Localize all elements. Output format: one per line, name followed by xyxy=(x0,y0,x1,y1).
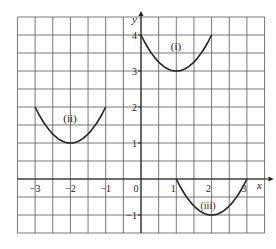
y-axis-label: y xyxy=(131,13,137,25)
curve-label-ii: (ii) xyxy=(63,112,77,125)
x-tick-label: 2 xyxy=(206,183,211,194)
y-tick-label: 2 xyxy=(132,102,137,113)
tick-labels: −3−2−101234321−1 xyxy=(30,30,247,221)
curve-label-iii: (iii) xyxy=(201,200,216,212)
x-tick-label: −2 xyxy=(65,183,76,194)
x-tick-label: −3 xyxy=(30,183,41,194)
x-tick-label: 3 xyxy=(241,183,246,194)
x-tick-label: 1 xyxy=(171,183,176,194)
x-axis-label: x xyxy=(256,179,262,191)
curve-label-i: (i) xyxy=(171,40,182,53)
x-tick-label: −1 xyxy=(100,183,111,194)
y-tick-label: 3 xyxy=(132,66,137,77)
parabola-graph: −3−2−101234321−1 (i) (ii) (iii) x y xyxy=(0,0,276,249)
y-tick-label: 1 xyxy=(132,138,137,149)
x-tick-label: 0 xyxy=(134,183,139,194)
y-tick-label: 4 xyxy=(132,30,137,41)
y-tick-label: −1 xyxy=(126,210,137,221)
